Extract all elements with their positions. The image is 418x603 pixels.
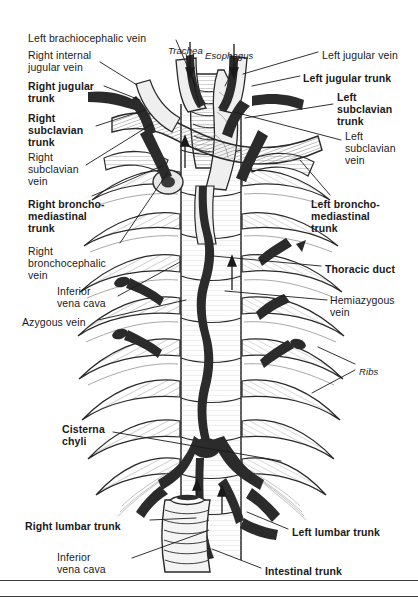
label-azygous-vein: Azygous vein [22, 317, 86, 329]
leader-left-subclavian-vein [234, 112, 341, 140]
label-cisterna-chyli: Cisterna chyli [62, 424, 105, 448]
label-ribs: Ribs [359, 366, 378, 378]
label-right-lumbar-trunk: Right lumbar trunk [25, 521, 121, 533]
leader-ribs-upper [318, 347, 355, 364]
label-thoracic-duct: Thoracic duct [325, 264, 395, 276]
label-inferior-vena-cava-lower: Inferior vena cava [57, 552, 106, 576]
anatomy-figure: Left brachiocephalic vein Right internal… [0, 0, 418, 603]
leader-left-subclavian-trunk [245, 104, 333, 118]
bottom-rule-upper [0, 580, 418, 581]
label-inferior-vena-cava-upper: Inferior vena cava [57, 286, 106, 310]
label-right-bronchocephalic-vein: Right bronchocephalic vein [28, 246, 106, 281]
label-right-subclavian-vein: Right subclavian vein [28, 152, 79, 187]
leader-left-jugular-vein [243, 52, 318, 74]
label-right-jugular-trunk: Right jugular trunk [28, 81, 94, 105]
label-right-subclavian-trunk: Right subclavian trunk [28, 113, 83, 148]
inferior-vena-cava-trunk [162, 495, 210, 572]
label-left-lumbar-trunk: Left lumbar trunk [292, 527, 380, 539]
label-left-brachiocephalic-vein: Left brachiocephalic vein [28, 33, 146, 45]
label-hemiazygous-vein: Hemiazygous vein [330, 295, 395, 319]
label-right-internal-jugular-vein: Right internal jugular vein [28, 50, 91, 74]
label-left-subclavian-trunk: Left subclavian trunk [337, 92, 392, 127]
label-right-bronchomediastinal-trunk: Right broncho- mediastinal trunk [28, 199, 105, 234]
leader-right-internal-jugular-vein [100, 62, 137, 85]
label-trachea: Trachea [168, 45, 203, 57]
label-esophagus: Esophagus [205, 50, 253, 62]
label-left-bronchomediastinal-trunk: Left broncho- mediastinal trunk [311, 199, 380, 234]
bottom-rule-lower [0, 596, 418, 597]
leader-left-jugular-trunk [252, 76, 300, 86]
label-left-subclavian-vein: Left subclavian vein [345, 131, 396, 166]
label-left-jugular-vein: Left jugular vein [322, 50, 398, 62]
label-intestinal-trunk: Intestinal trunk [265, 566, 342, 578]
label-left-jugular-trunk: Left jugular trunk [303, 73, 391, 85]
